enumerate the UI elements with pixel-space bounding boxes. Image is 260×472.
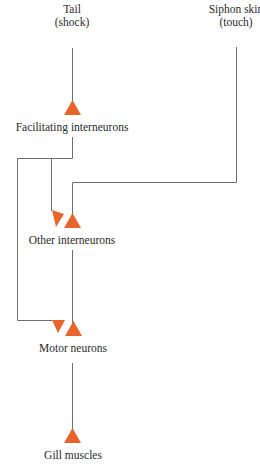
tail-label: Tail [55, 3, 90, 16]
siphon-label: Siphon skin [209, 3, 260, 16]
tail-sublabel: (shock) [55, 16, 90, 29]
synapse-triangle-motor [65, 321, 82, 336]
node-siphon: Siphon skin (touch) [209, 3, 260, 29]
facilitating-axon [18, 137, 73, 321]
synapse-triangle-facilitating-on-motor [52, 320, 65, 333]
node-tail: Tail (shock) [55, 3, 90, 29]
node-facilitating-label: Facilitating interneurons [16, 121, 129, 134]
siphon-sublabel: (touch) [209, 16, 260, 29]
synapse-triangle-facilitating [64, 100, 81, 115]
node-motor-label: Motor neurons [39, 342, 107, 355]
synapse-triangle-facilitating-on-other [52, 210, 64, 227]
node-gill-label: Gill muscles [44, 449, 102, 462]
node-other-label: Other interneurons [29, 234, 116, 247]
synapse-triangle-gill [64, 428, 81, 443]
synapse-triangle-other [64, 213, 81, 228]
